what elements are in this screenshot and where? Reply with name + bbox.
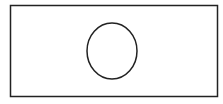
diagram-canvas [0, 0, 223, 104]
inner-circle [87, 23, 137, 79]
outer-rectangle [11, 6, 218, 97]
